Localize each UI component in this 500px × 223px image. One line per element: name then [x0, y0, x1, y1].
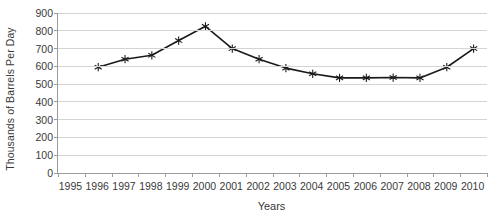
- y-axis-tick-mark: [54, 119, 58, 120]
- x-axis-tick-mark: [433, 173, 434, 177]
- gridline: [58, 66, 487, 67]
- y-axis-tick-label: 700: [20, 44, 53, 54]
- x-axis-tick-mark: [85, 173, 86, 177]
- y-axis-tick-label: 300: [20, 115, 53, 125]
- y-axis-tick-label: 800: [20, 26, 53, 36]
- y-axis-tick-mark: [54, 155, 58, 156]
- x-axis-tick-mark: [487, 173, 488, 177]
- y-axis-tick-mark: [54, 48, 58, 49]
- plot-area: [57, 13, 487, 173]
- gridline: [58, 84, 487, 85]
- x-axis-tick-mark: [138, 173, 139, 177]
- y-axis-tick-mark: [54, 13, 58, 14]
- y-axis-tick-mark: [54, 84, 58, 85]
- x-axis-tick-mark: [273, 173, 274, 177]
- x-axis-tick-mark: [299, 173, 300, 177]
- y-axis-tick-label: 600: [20, 61, 53, 71]
- gridline: [58, 30, 487, 31]
- y-axis-tick-label: 200: [20, 132, 53, 142]
- y-axis-tick-mark: [54, 101, 58, 102]
- x-axis-tick-mark: [407, 173, 408, 177]
- x-axis-tick-labels: 1995199619971998199920002001200220032004…: [57, 180, 486, 194]
- data-point-marker: [443, 63, 450, 71]
- y-axis-tick-label: 900: [20, 8, 53, 18]
- data-point-marker: [175, 36, 182, 44]
- gridline: [58, 101, 487, 102]
- x-axis-tick-mark: [246, 173, 247, 177]
- x-axis-tick-mark: [58, 173, 59, 177]
- x-axis-tick-mark: [165, 173, 166, 177]
- gridline: [58, 48, 487, 49]
- y-axis-tick-label: 100: [20, 150, 53, 160]
- gridline: [58, 13, 487, 14]
- x-axis-tick-mark: [353, 173, 354, 177]
- y-axis-tick-label: 500: [20, 79, 53, 89]
- x-axis-title: Years: [57, 200, 486, 212]
- x-axis-tick-label: 2010: [456, 180, 490, 192]
- y-axis-tick-mark: [54, 30, 58, 31]
- x-axis-tick-mark: [460, 173, 461, 177]
- data-series-line: [58, 13, 487, 173]
- x-axis-tick-mark: [192, 173, 193, 177]
- y-axis-tick-label: 0: [20, 168, 53, 178]
- gridline: [58, 119, 487, 120]
- x-axis-tick-mark: [219, 173, 220, 177]
- x-axis-tick-mark: [326, 173, 327, 177]
- gridline: [58, 137, 487, 138]
- y-axis-tick-mark: [54, 137, 58, 138]
- y-axis-tick-labels: 0100200300400500600700800900: [20, 8, 53, 178]
- y-axis-tick-label: 400: [20, 97, 53, 107]
- y-axis-tick-mark: [54, 66, 58, 67]
- x-axis-tick-mark: [112, 173, 113, 177]
- line-chart-figure: Thousands of Barrels Per Day 01002003004…: [0, 0, 500, 223]
- y-axis-title: Thousands of Barrels Per Day: [2, 8, 18, 190]
- x-axis-tick-mark: [380, 173, 381, 177]
- gridline: [58, 155, 487, 156]
